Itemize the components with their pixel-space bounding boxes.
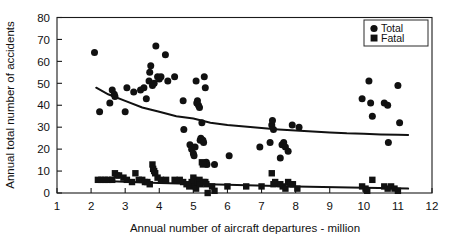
data-point-fatal bbox=[364, 188, 370, 194]
data-point-total bbox=[270, 126, 277, 133]
data-point-total bbox=[180, 97, 187, 104]
data-point-total bbox=[394, 82, 401, 89]
data-point-total bbox=[147, 62, 154, 69]
data-point-total bbox=[146, 69, 153, 76]
data-point-total bbox=[122, 108, 129, 115]
data-point-total bbox=[365, 78, 372, 85]
data-point-fatal bbox=[132, 170, 138, 176]
data-point-total bbox=[385, 139, 392, 146]
data-point-fatal bbox=[294, 185, 300, 191]
data-point-total bbox=[211, 161, 218, 168]
data-point-total bbox=[164, 78, 171, 85]
x-tick-label: 7 bbox=[258, 200, 264, 212]
data-point-fatal bbox=[269, 170, 275, 176]
data-point-total bbox=[143, 95, 150, 102]
data-point-fatal bbox=[395, 188, 401, 194]
data-point-total bbox=[91, 49, 98, 56]
data-point-total bbox=[269, 117, 276, 124]
data-point-total bbox=[201, 73, 208, 80]
data-point-total bbox=[106, 100, 113, 107]
data-point-total bbox=[193, 78, 200, 85]
x-axis-title: Annual number of aircraft departures - m… bbox=[130, 222, 360, 234]
data-point-fatal bbox=[369, 177, 375, 183]
data-point-total bbox=[157, 73, 164, 80]
data-point-total bbox=[289, 121, 296, 128]
data-point-total bbox=[369, 113, 376, 120]
data-point-fatal bbox=[243, 183, 249, 189]
data-point-fatal bbox=[163, 177, 169, 183]
data-point-total bbox=[200, 139, 207, 146]
x-tick-label: 2 bbox=[88, 200, 94, 212]
data-point-total bbox=[202, 84, 209, 91]
y-tick-label: 10 bbox=[37, 165, 50, 177]
data-point-total bbox=[285, 148, 292, 155]
data-point-fatal bbox=[258, 183, 264, 189]
data-point-total bbox=[171, 73, 178, 80]
data-point-total bbox=[180, 126, 187, 133]
x-tick-label: 8 bbox=[292, 200, 298, 212]
data-point-total bbox=[359, 95, 366, 102]
data-point-total bbox=[123, 84, 130, 91]
data-point-fatal bbox=[147, 181, 153, 187]
legend-circle-marker-icon bbox=[370, 25, 377, 32]
data-point-fatal bbox=[129, 179, 135, 185]
data-point-total bbox=[192, 143, 199, 150]
y-tick-label: 0 bbox=[44, 187, 50, 199]
y-tick-label: 20 bbox=[37, 143, 50, 155]
data-point-total bbox=[384, 102, 391, 109]
data-point-total bbox=[111, 93, 118, 100]
data-point-fatal bbox=[224, 183, 230, 189]
x-tick-label: 10 bbox=[357, 200, 370, 212]
data-point-total bbox=[296, 124, 303, 131]
data-point-total bbox=[277, 154, 284, 161]
legend-square-marker-icon bbox=[371, 35, 378, 42]
x-tick-label: 6 bbox=[224, 200, 230, 212]
y-tick-label: 80 bbox=[37, 12, 50, 24]
x-tick-label: 4 bbox=[156, 200, 163, 212]
x-tick-label: 5 bbox=[190, 200, 196, 212]
data-point-total bbox=[96, 108, 103, 115]
x-tick-label: 11 bbox=[392, 200, 404, 212]
x-tick-label: 9 bbox=[327, 200, 333, 212]
data-point-total bbox=[367, 100, 374, 107]
data-point-total bbox=[196, 104, 203, 111]
legend-label-fatal: Fatal bbox=[381, 32, 404, 44]
data-point-total bbox=[191, 152, 198, 159]
data-point-total bbox=[267, 139, 274, 146]
data-point-fatal bbox=[211, 188, 217, 194]
data-point-total bbox=[256, 143, 263, 150]
data-point-fatal bbox=[204, 190, 210, 196]
x-tick-label: 1 bbox=[54, 200, 60, 212]
data-point-fatal bbox=[200, 161, 206, 167]
data-point-fatal bbox=[203, 181, 209, 187]
data-point-total bbox=[130, 89, 137, 96]
y-tick-label: 40 bbox=[37, 99, 50, 111]
chart-canvas: 01020304050607080 123456789101112 Annual… bbox=[0, 0, 450, 241]
data-point-total bbox=[396, 119, 403, 126]
data-point-total bbox=[152, 43, 159, 50]
scatter-chart: 01020304050607080 123456789101112 Annual… bbox=[0, 0, 450, 241]
data-point-total bbox=[162, 51, 169, 58]
x-tick-label: 12 bbox=[426, 200, 439, 212]
x-tick-label: 3 bbox=[122, 200, 128, 212]
legend[interactable]: Total Fatal bbox=[364, 20, 428, 46]
y-tick-label: 60 bbox=[37, 56, 50, 68]
y-tick-label: 70 bbox=[37, 34, 50, 46]
y-axis-title: Annual total number of accidents bbox=[4, 21, 16, 189]
y-tick-label: 50 bbox=[37, 78, 50, 90]
data-point-total bbox=[226, 152, 233, 159]
data-point-total bbox=[198, 119, 205, 126]
y-axis: 01020304050607080 bbox=[37, 12, 62, 200]
y-tick-label: 30 bbox=[37, 121, 50, 133]
data-point-total bbox=[140, 84, 147, 91]
